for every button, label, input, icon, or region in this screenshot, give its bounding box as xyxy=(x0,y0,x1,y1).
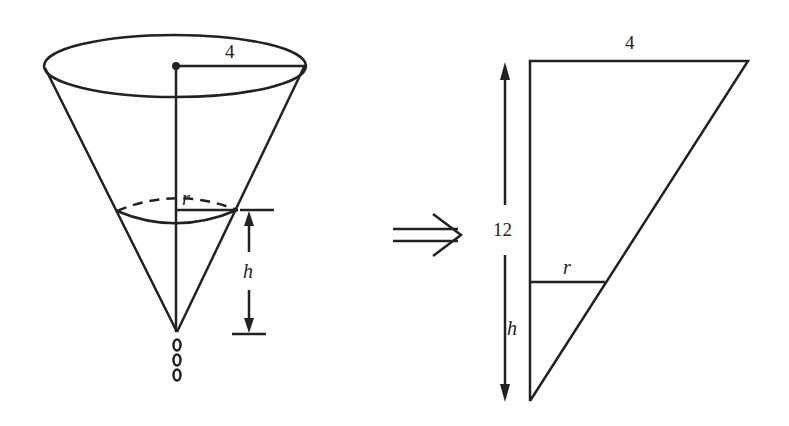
cone xyxy=(44,35,306,334)
height-arrowhead-down xyxy=(500,384,510,402)
height-arrowhead-up xyxy=(500,62,510,80)
cone-water-radius-label: r xyxy=(182,187,190,209)
triangle-height-label: 12 xyxy=(493,219,512,240)
drop-icon xyxy=(174,340,181,351)
implies-arrow-icon xyxy=(393,214,461,256)
cone-water-height-label: h xyxy=(243,260,253,282)
triangle-top-label: 4 xyxy=(625,32,635,53)
cone-center-dot xyxy=(172,62,180,70)
triangle-inner-height-label: h xyxy=(507,317,517,339)
big-triangle xyxy=(530,61,748,401)
triangle-inner-radius-label: r xyxy=(563,256,571,278)
drip-drops xyxy=(174,340,181,381)
cone-top-radius-label: 4 xyxy=(225,41,235,62)
cone-right-side xyxy=(177,65,305,332)
h-arrowhead-down xyxy=(244,318,254,333)
h-arrowhead-up xyxy=(244,211,254,226)
drop-icon xyxy=(174,370,181,381)
drop-icon xyxy=(174,355,181,366)
similar-triangle xyxy=(505,61,748,401)
cone-similar-triangles-diagram: 4 r h 4 12 r h xyxy=(0,0,789,426)
